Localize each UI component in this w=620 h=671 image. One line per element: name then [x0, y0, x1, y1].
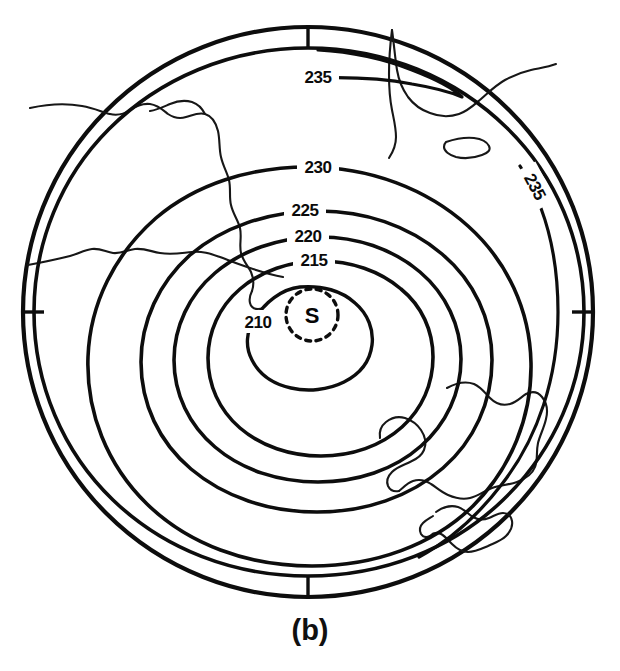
- contour-label-230: 230: [305, 158, 332, 177]
- contour-label-235-top: 235: [305, 68, 332, 87]
- figure-panel: 235 230 225 220 215 210 235 S (b): [0, 0, 620, 671]
- contour-label-220: 220: [295, 227, 322, 246]
- contour-line-235-right-arc: [419, 166, 558, 557]
- coastline-south-america: [30, 104, 253, 291]
- contour-map-svg: 235 230 225 220 215 210 235 S: [0, 0, 620, 671]
- figure-caption: (b): [0, 614, 620, 647]
- contour-label-215: 215: [301, 251, 328, 270]
- contour-line-220: [174, 237, 461, 482]
- contour-label-group: 235 230 225 220 215 210 235: [238, 65, 556, 333]
- south-pole-label: S: [305, 303, 320, 328]
- contour-label-210: 210: [245, 313, 272, 332]
- contour-label-225: 225: [292, 201, 319, 220]
- coastline-madagascar: [444, 138, 490, 158]
